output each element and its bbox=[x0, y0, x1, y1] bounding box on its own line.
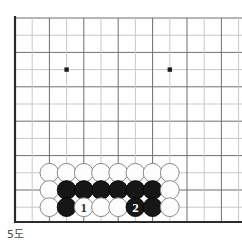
white-stone bbox=[40, 198, 59, 217]
stone-disc bbox=[57, 163, 76, 182]
star-point bbox=[64, 67, 68, 71]
figure-caption: 5도 bbox=[7, 228, 25, 241]
white-stone bbox=[92, 163, 111, 182]
black-stone bbox=[143, 181, 162, 200]
go-board: 12 bbox=[0, 0, 242, 247]
black-stone: 2 bbox=[126, 198, 145, 217]
stone-disc bbox=[74, 163, 93, 182]
stone-disc bbox=[92, 163, 111, 182]
stone-disc bbox=[109, 181, 128, 200]
stone-disc bbox=[126, 163, 145, 182]
stone-disc bbox=[109, 163, 128, 182]
black-stone bbox=[57, 198, 76, 217]
white-stone bbox=[40, 163, 59, 182]
stone-disc bbox=[57, 181, 76, 200]
black-stone bbox=[126, 181, 145, 200]
stone-disc bbox=[40, 181, 59, 200]
stone-disc bbox=[143, 181, 162, 200]
white-stone bbox=[160, 163, 179, 182]
white-stone bbox=[109, 163, 128, 182]
black-stone bbox=[92, 181, 111, 200]
white-stone bbox=[109, 198, 128, 217]
black-stone bbox=[143, 198, 162, 217]
stone-disc bbox=[74, 181, 93, 200]
white-stone bbox=[160, 198, 179, 217]
black-stone bbox=[109, 181, 128, 200]
stone-disc bbox=[40, 163, 59, 182]
white-stone bbox=[92, 198, 111, 217]
white-stone bbox=[74, 163, 93, 182]
black-stone bbox=[57, 181, 76, 200]
star-point bbox=[168, 67, 172, 71]
white-stone bbox=[160, 181, 179, 200]
stone-move-number: 1 bbox=[81, 200, 88, 215]
stone-disc bbox=[57, 198, 76, 217]
stone-disc bbox=[160, 163, 179, 182]
stone-disc bbox=[143, 163, 162, 182]
stone-move-number: 2 bbox=[132, 200, 139, 215]
stone-disc bbox=[160, 198, 179, 217]
white-stone bbox=[57, 163, 76, 182]
stone-disc bbox=[92, 198, 111, 217]
stone-disc bbox=[160, 181, 179, 200]
white-stone bbox=[40, 181, 59, 200]
stone-disc bbox=[40, 198, 59, 217]
black-stone bbox=[74, 181, 93, 200]
go-diagram: 12 5도 bbox=[0, 0, 242, 247]
stone-disc bbox=[126, 181, 145, 200]
white-stone bbox=[126, 163, 145, 182]
stones-layer: 12 bbox=[40, 163, 179, 216]
white-stone: 1 bbox=[74, 198, 93, 217]
stone-disc bbox=[92, 181, 111, 200]
white-stone bbox=[143, 163, 162, 182]
stone-disc bbox=[109, 198, 128, 217]
stone-disc bbox=[143, 198, 162, 217]
